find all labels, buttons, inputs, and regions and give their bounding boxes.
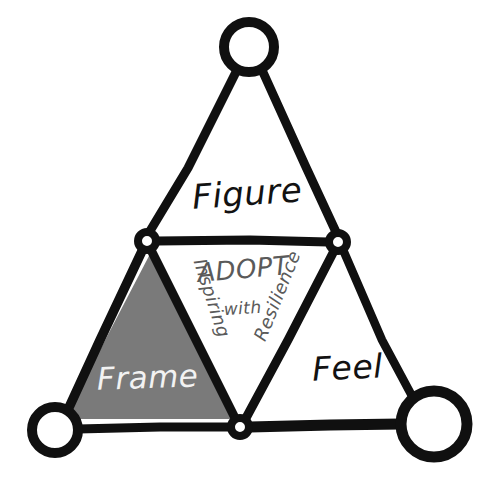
edge-inner-left-to-inner-right [157,240,328,242]
label-frame: Frame [96,357,199,397]
edge-inner-bottom-to-bottom-right [250,424,401,427]
vertex-node-top[interactable] [224,22,274,72]
vertex-node-bottom-right[interactable] [401,391,467,457]
vertex-node-inner-right[interactable] [329,233,347,251]
center-label-layer: ADOPT with Inspiring Resilience [190,247,305,343]
vertex-node-inner-bottom[interactable] [231,418,249,436]
diagram-canvas: Figure Frame Feel ADOPT with Inspiring R… [0,0,500,498]
adopt-triangle-diagram: Figure Frame Feel ADOPT with Inspiring R… [0,0,500,498]
label-figure: Figure [191,169,304,217]
edge-bottom-left-to-inner-bottom [78,427,230,429]
vertex-node-bottom-left[interactable] [32,407,78,453]
label-feel: Feel [311,346,384,389]
vertex-node-inner-left[interactable] [138,232,156,250]
